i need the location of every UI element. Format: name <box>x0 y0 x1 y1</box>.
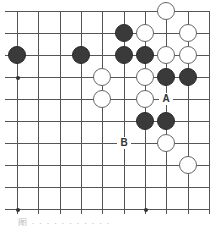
star-point <box>16 208 20 212</box>
grid-column-line <box>60 11 61 214</box>
white-stone <box>179 24 197 42</box>
white-stone <box>179 156 197 174</box>
grid-column-line <box>81 11 82 214</box>
black-stone <box>179 68 197 86</box>
black-stone <box>8 46 26 64</box>
white-stone <box>93 68 111 86</box>
black-stone <box>136 46 154 64</box>
grid-row-line <box>5 209 210 210</box>
black-stone <box>115 24 133 42</box>
white-stone <box>136 68 154 86</box>
white-stone <box>93 90 111 108</box>
grid-column-line <box>38 11 39 214</box>
black-stone <box>115 46 133 64</box>
grid-row-line <box>5 11 210 12</box>
go-board: AB <box>0 0 214 226</box>
black-stone <box>72 46 90 64</box>
star-point <box>144 208 148 212</box>
white-stone <box>136 24 154 42</box>
black-stone <box>136 112 154 130</box>
white-stone <box>157 46 175 64</box>
white-stone <box>136 90 154 108</box>
star-point <box>16 76 20 80</box>
white-stone <box>157 134 175 152</box>
grid-column-line <box>209 11 210 214</box>
grid-row-line <box>5 187 210 188</box>
point-label-b: B <box>117 137 131 149</box>
white-stone <box>179 46 197 64</box>
grid-column-line <box>17 11 18 214</box>
grid-column-line <box>102 11 103 214</box>
grid-row-line <box>5 143 210 144</box>
black-stone <box>157 68 175 86</box>
white-stone <box>157 2 175 20</box>
grid-row-line <box>5 121 210 122</box>
point-label-a: A <box>159 93 173 105</box>
black-stone <box>157 112 175 130</box>
caption: 图 · · · · · · · · · · · <box>18 216 110 226</box>
